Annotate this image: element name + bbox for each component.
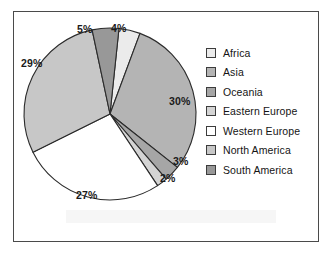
legend-swatch-icon [206, 67, 216, 77]
legend-item-label: Oceania [223, 86, 263, 98]
legend-swatch-icon [206, 126, 216, 136]
legend-item-eastern-europe[interactable]: Eastern Europe [206, 102, 318, 122]
legend-item-label: South America [223, 164, 293, 176]
legend: AfricaAsiaOceaniaEastern EuropeWestern E… [206, 43, 318, 180]
legend-item-label: Eastern Europe [223, 105, 297, 117]
pie-label-africa: 4% [111, 22, 127, 34]
legend-item-oceania[interactable]: Oceania [206, 82, 318, 102]
legend-item-label: Africa [223, 47, 250, 59]
legend-item-label: Western Europe [223, 125, 300, 137]
legend-item-north-america[interactable]: North America [206, 141, 318, 161]
pie-label-western-europe: 27% [76, 189, 98, 201]
figure-frame: 5% 4% 29% 30% 3% 2% 27% AfricaAsiaOceani… [13, 11, 319, 242]
pie-label-oceania: 3% [173, 155, 189, 167]
legend-swatch-icon [206, 165, 216, 175]
legend-swatch-icon [206, 106, 216, 116]
legend-item-africa[interactable]: Africa [206, 43, 318, 63]
pie-label-south-america: 5% [77, 23, 93, 35]
legend-swatch-icon [206, 145, 216, 155]
legend-item-western-europe[interactable]: Western Europe [206, 121, 318, 141]
pie-label-eastern-europe: 2% [160, 172, 176, 184]
legend-swatch-icon [206, 48, 216, 58]
legend-item-south-america[interactable]: South America [206, 160, 318, 180]
legend-item-label: Asia [223, 66, 244, 78]
figure-root: 5% 4% 29% 30% 3% 2% 27% AfricaAsiaOceani… [0, 0, 334, 262]
pie-label-north-america: 29% [21, 57, 43, 69]
pie-label-asia: 30% [169, 95, 191, 107]
scan-artifact [66, 210, 276, 223]
legend-item-label: North America [223, 144, 291, 156]
pie-chart: 5% 4% 29% 30% 3% 2% 27% AfricaAsiaOceani… [14, 12, 320, 243]
legend-swatch-icon [206, 87, 216, 97]
legend-item-asia[interactable]: Asia [206, 63, 318, 83]
